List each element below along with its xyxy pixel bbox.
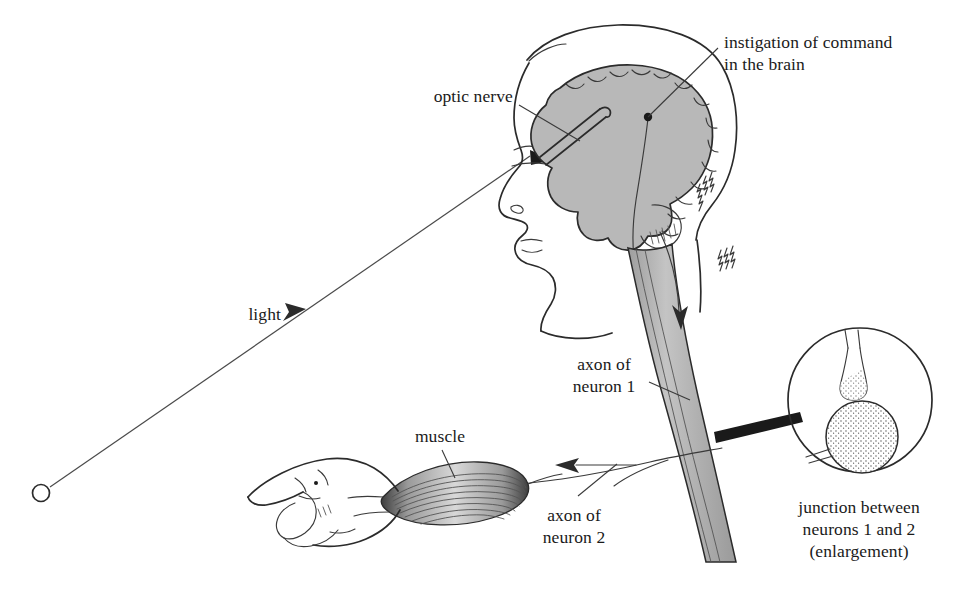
muscle-tendon-right (528, 474, 562, 484)
label-instigation-line1: instigation of command (724, 32, 893, 52)
curled-fingers (276, 503, 295, 538)
nostril (511, 205, 523, 213)
spinal-cord-band (628, 244, 736, 562)
presynaptic-axon-line-1 (845, 330, 848, 348)
jaw-neck-outline (541, 331, 612, 338)
knuckle-dot (314, 481, 318, 485)
brain-group (531, 65, 718, 258)
diagram-root: light (0, 0, 959, 590)
label-muscle: muscle (415, 426, 465, 446)
postsynaptic-dendrite-1 (806, 449, 830, 457)
label-junction-line3: (enlargement) (809, 541, 908, 561)
finger-crease-1 (295, 478, 306, 492)
finger-crease-2 (318, 470, 328, 485)
light-source-circle (33, 485, 50, 502)
label-axon2-line2: neuron 2 (543, 527, 606, 547)
muscle-spindle (381, 462, 528, 525)
muscle-tendon-left (348, 496, 383, 498)
label-axon1-line2: neuron 1 (573, 376, 636, 396)
lips-line (521, 240, 542, 242)
label-axon2-line1: axon of (547, 505, 601, 525)
hand-outline (248, 458, 398, 497)
label-axon1-line1: axon of (577, 354, 631, 374)
muscle-tendon-left-lower (354, 512, 389, 516)
brain-gray-matter (531, 65, 713, 250)
nail-line (330, 529, 355, 533)
postsynaptic-dendrite-2 (809, 456, 833, 463)
motor-signal-arrow-head (555, 458, 579, 473)
neck-back-outline (697, 240, 701, 312)
reflex-arc-figure: light (0, 0, 959, 590)
label-optic-nerve: optic nerve (434, 86, 513, 106)
presynaptic-axon-line-2 (858, 330, 860, 348)
light-source-group: light (33, 156, 531, 502)
lower-lip-line (522, 250, 542, 252)
leader-axon2 (578, 464, 617, 496)
terminal-stipple (840, 368, 867, 400)
label-junction-line1: junction between (797, 497, 920, 517)
label-light: light (248, 304, 281, 324)
hand-group (248, 458, 400, 546)
hair-strands (697, 172, 735, 271)
label-junction-line2: neurons 1 and 2 (803, 519, 916, 539)
label-instigation-line2: in the brain (724, 54, 805, 74)
finger-detail-lines (318, 505, 331, 517)
synapse-enlargement-group (714, 328, 932, 473)
postsynaptic-cell-body (826, 401, 898, 473)
